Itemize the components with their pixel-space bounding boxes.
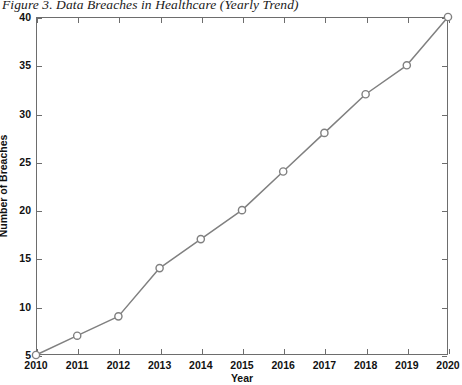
- x-axis-tick: [367, 349, 368, 354]
- x-axis-tick: [284, 349, 285, 354]
- y-axis-tick: [37, 18, 42, 19]
- x-axis-tick: [37, 349, 38, 354]
- x-axis-tick: [78, 349, 79, 354]
- x-axis-tick-label: 2015: [230, 359, 253, 371]
- y-axis-tick: [442, 163, 447, 164]
- x-axis-tick-label: 2017: [313, 359, 336, 371]
- y-axis-tick: [442, 115, 447, 116]
- x-axis-tick: [284, 18, 285, 23]
- y-axis-tick: [37, 356, 42, 357]
- x-axis-tick: [161, 18, 162, 23]
- x-axis-tick-label: 2019: [395, 359, 418, 371]
- y-axis-tick-label: 20: [19, 204, 31, 216]
- y-axis-tick-label: 15: [19, 252, 31, 264]
- x-axis-tick: [408, 349, 409, 354]
- y-axis-tick-label: 30: [19, 108, 31, 120]
- y-axis-tick: [37, 115, 42, 116]
- x-axis-tick: [449, 349, 450, 354]
- y-axis-tick: [442, 356, 447, 357]
- x-axis-tick-label: 2016: [272, 359, 295, 371]
- x-axis-tick: [119, 18, 120, 23]
- y-axis-tick-label: 40: [19, 11, 31, 23]
- x-axis-tick: [243, 349, 244, 354]
- y-axis-tick-label: 5: [25, 349, 31, 361]
- x-axis-tick-label: 2018: [354, 359, 377, 371]
- x-axis-title: Year: [231, 372, 253, 384]
- x-axis-tick: [161, 349, 162, 354]
- x-axis-tick: [325, 349, 326, 354]
- y-axis-title: Number of Breaches: [0, 135, 9, 238]
- x-axis-tick-label: 2020: [436, 359, 459, 371]
- y-axis-tick: [442, 211, 447, 212]
- x-axis-tick: [325, 18, 326, 23]
- y-axis-tick: [442, 308, 447, 309]
- y-axis-tick-label: 35: [19, 59, 31, 71]
- x-axis-tick: [367, 18, 368, 23]
- line-chart: 2010201120122013201420152016201720182019…: [0, 0, 462, 385]
- x-axis-tick: [202, 349, 203, 354]
- x-axis-tick-label: 2012: [107, 359, 130, 371]
- y-axis-tick: [37, 211, 42, 212]
- y-axis-tick: [37, 308, 42, 309]
- x-axis-tick-label: 2014: [189, 359, 212, 371]
- x-axis-tick: [202, 18, 203, 23]
- y-axis-tick: [37, 259, 42, 260]
- x-axis-tick: [408, 18, 409, 23]
- x-axis-tick: [119, 349, 120, 354]
- x-axis-tick: [243, 18, 244, 23]
- x-axis-tick-label: 2011: [66, 359, 89, 371]
- y-axis-tick: [442, 66, 447, 67]
- x-axis-tick-label: 2013: [148, 359, 171, 371]
- y-axis-tick-label: 25: [19, 156, 31, 168]
- x-axis-tick: [78, 18, 79, 23]
- y-axis-tick: [442, 259, 447, 260]
- y-axis-tick: [442, 18, 447, 19]
- y-axis-tick: [37, 163, 42, 164]
- plot-area: [36, 17, 448, 355]
- x-axis-tick: [449, 18, 450, 23]
- y-axis-tick-label: 10: [19, 301, 31, 313]
- y-axis-tick: [37, 66, 42, 67]
